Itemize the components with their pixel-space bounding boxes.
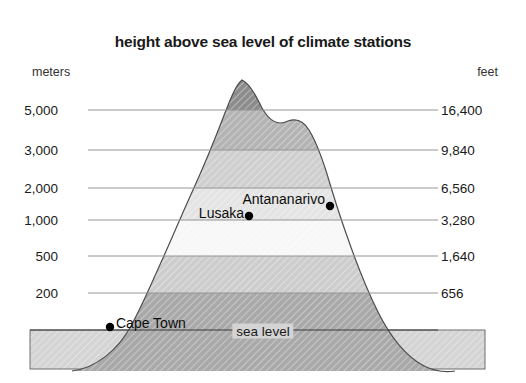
climate-station-elevation-diagram: height above sea level of climate statio…	[0, 0, 526, 383]
band-above-5000	[0, 0, 526, 110]
tick-label-left-500: 500	[35, 249, 58, 264]
tick-label-right-6560: 6,560	[441, 181, 475, 196]
station-dot-cape-town	[106, 323, 114, 331]
tick-label-right-9840: 9,840	[441, 143, 475, 158]
tick-label-left-200: 200	[35, 286, 58, 301]
station-label-cape-town: Cape Town	[116, 315, 186, 331]
tick-label-right-3280: 3,280	[441, 213, 475, 228]
tick-label-right-16400: 16,400	[441, 103, 482, 118]
tick-label-right-656: 656	[441, 286, 464, 301]
station-label-lusaka: Lusaka	[199, 205, 244, 221]
station-label-antananarivo: Antananarivo	[242, 191, 325, 207]
tick-label-left-1000: 1,000	[24, 213, 58, 228]
station-dot-lusaka	[245, 212, 253, 220]
tick-label-left-2000: 2,000	[24, 181, 58, 196]
tick-label-left-5000: 5,000	[24, 103, 58, 118]
tick-label-left-3000: 3,000	[24, 143, 58, 158]
station-dot-antananarivo	[326, 202, 334, 210]
tick-label-right-1640: 1,640	[441, 249, 475, 264]
sea-level-annotation: sea level	[232, 324, 293, 339]
